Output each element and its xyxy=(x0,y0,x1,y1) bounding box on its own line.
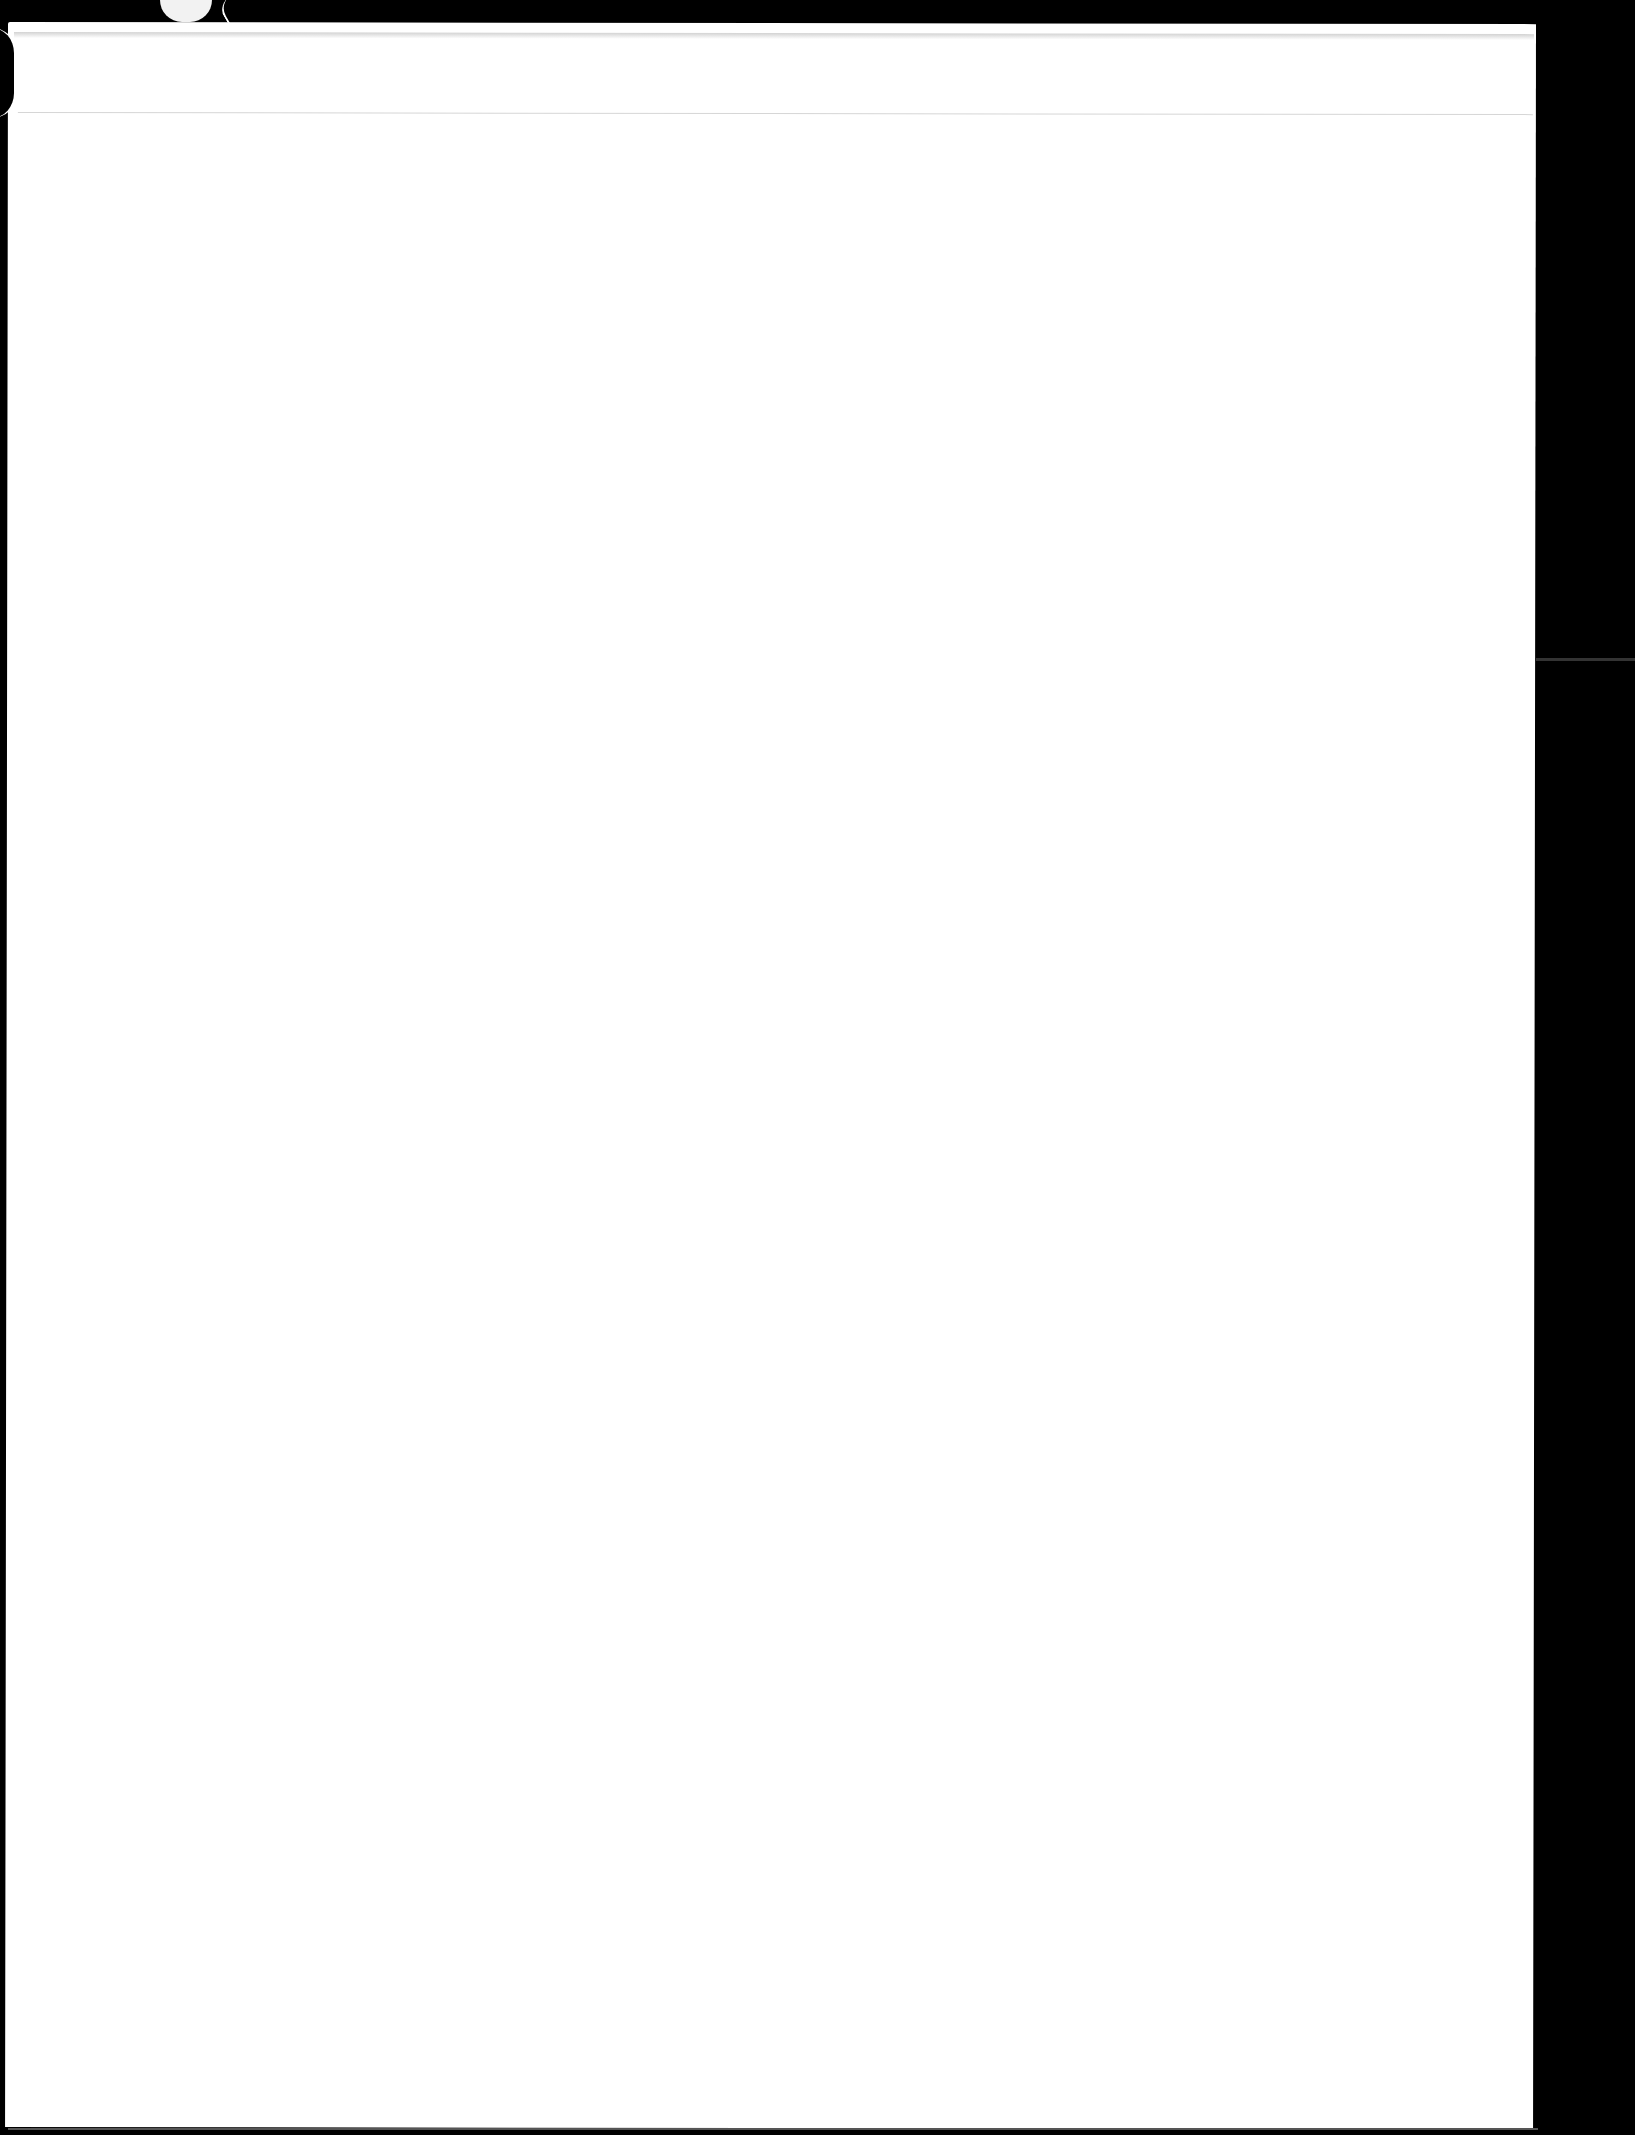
page-top-edge-shadow xyxy=(14,32,1534,40)
page-fold-line xyxy=(18,112,1533,115)
scanner-artifact-top xyxy=(160,0,212,22)
page-bottom-edge xyxy=(8,2128,1538,2130)
scanner-artifact-right-line xyxy=(1536,658,1635,661)
blank-document-page xyxy=(5,22,1536,2129)
